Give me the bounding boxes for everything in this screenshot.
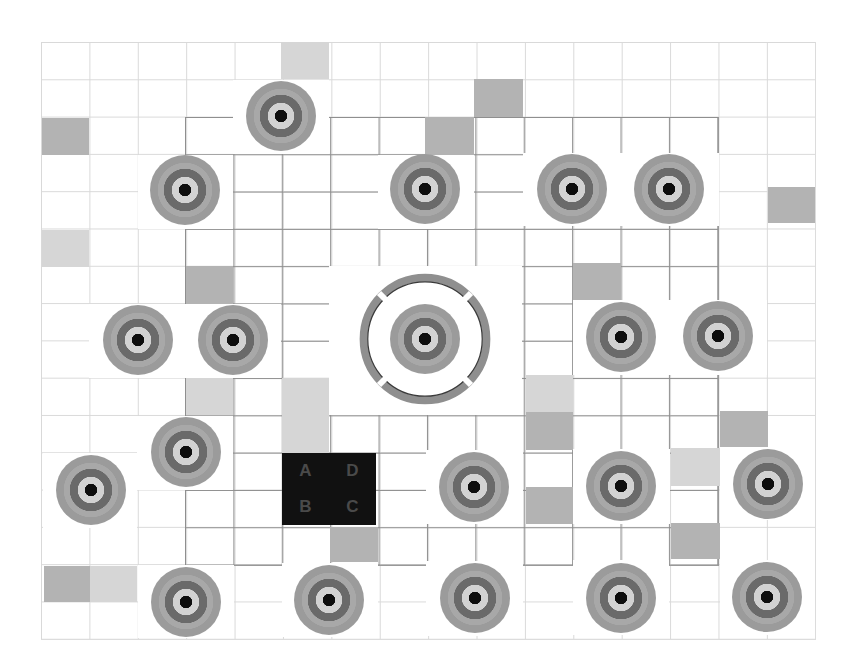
target-icon bbox=[103, 305, 173, 375]
target-icon bbox=[294, 565, 364, 635]
target-icon bbox=[440, 563, 510, 633]
reticle-segment-top bbox=[382, 278, 469, 296]
shaded-cell-light bbox=[281, 42, 329, 79]
label-c: C bbox=[346, 497, 358, 517]
target-icon bbox=[586, 451, 656, 521]
shaded-cell-gray bbox=[186, 266, 233, 303]
shaded-cell-gray bbox=[573, 263, 621, 300]
reticle-segment-bottom bbox=[382, 382, 469, 400]
shaded-cell-light bbox=[282, 378, 329, 415]
target-icon bbox=[683, 301, 753, 371]
target-icon bbox=[56, 455, 126, 525]
target-icon bbox=[537, 154, 607, 224]
target-icon bbox=[150, 155, 220, 225]
target-icon bbox=[439, 452, 509, 522]
target-icon bbox=[390, 154, 460, 224]
target-icon bbox=[732, 562, 802, 632]
shaded-cell-light bbox=[671, 448, 720, 486]
target-icon bbox=[586, 563, 656, 633]
target-icon bbox=[198, 305, 268, 375]
target-icon bbox=[634, 154, 704, 224]
shaded-cell-gray bbox=[330, 527, 378, 562]
reticle-segment-left bbox=[364, 296, 382, 383]
shaded-cell-light bbox=[90, 566, 137, 602]
target-icon bbox=[151, 417, 221, 487]
target-icon bbox=[586, 302, 656, 372]
label-d: D bbox=[346, 461, 358, 481]
shaded-cell-light bbox=[282, 415, 329, 453]
shaded-cell-gray bbox=[42, 118, 89, 155]
shaded-cell-gray bbox=[768, 187, 815, 223]
target-icon bbox=[151, 567, 221, 637]
shaded-cell-gray bbox=[526, 487, 573, 524]
target-icon bbox=[246, 81, 316, 151]
reticle-segment-right bbox=[468, 296, 486, 383]
target-grid-board: A D B C bbox=[0, 0, 850, 671]
shaded-cell-light bbox=[42, 230, 89, 267]
shaded-cell-gray bbox=[720, 411, 768, 447]
shaded-cell-gray bbox=[526, 412, 573, 450]
center-reticle-icon bbox=[353, 267, 497, 411]
abcd-label-box: A D B C bbox=[282, 453, 376, 525]
label-a: A bbox=[299, 461, 311, 481]
shaded-cell-gray bbox=[425, 117, 474, 155]
shaded-cell-light bbox=[526, 375, 573, 412]
target-icon bbox=[733, 449, 803, 519]
shaded-cell-gray bbox=[474, 79, 523, 117]
shaded-cell-gray bbox=[671, 523, 720, 559]
shaded-cell-light bbox=[186, 378, 233, 415]
label-b: B bbox=[299, 497, 311, 517]
shaded-cell-gray bbox=[44, 566, 90, 602]
